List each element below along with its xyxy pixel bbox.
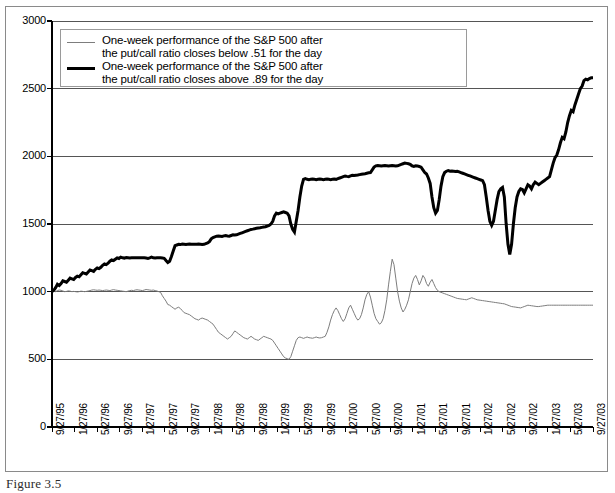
y-axis-tick-label: 1500 bbox=[6, 218, 46, 229]
y-axis-tick-label: 500 bbox=[6, 353, 46, 364]
x-axis-tick-label: 1/27/99 bbox=[281, 403, 291, 435]
legend-above-line2: the put/call ratio closes above .89 for … bbox=[102, 73, 323, 86]
x-axis-tick-label: 9/27/96 bbox=[124, 403, 134, 435]
x-axis-tick-label: 5/27/98 bbox=[236, 403, 246, 435]
legend-below-line1: One-week performance of the S&P 500 afte… bbox=[102, 34, 323, 47]
x-axis-tick-label: 9/27/02 bbox=[529, 403, 539, 435]
x-axis-tick-label: 5/27/03 bbox=[574, 403, 584, 435]
x-axis-tick-label: 1/27/97 bbox=[146, 403, 156, 435]
x-axis-tick-label: 9/27/00 bbox=[394, 403, 404, 435]
x-axis-tick-label: 1/27/02 bbox=[484, 403, 494, 435]
chart-frame: 050010001500200025003000 9/27/951/27/965… bbox=[5, 6, 608, 472]
legend-entry-above: One-week performance of the S&P 500 afte… bbox=[67, 60, 460, 86]
x-axis-tick-label: 1/27/03 bbox=[552, 403, 562, 435]
x-axis-tick-label: 5/27/01 bbox=[439, 403, 449, 435]
legend-entry-below: One-week performance of the S&P 500 afte… bbox=[67, 34, 460, 60]
x-axis-tick-label: 9/27/97 bbox=[191, 403, 201, 435]
legend-entry-above-label: One-week performance of the S&P 500 afte… bbox=[102, 60, 323, 86]
x-axis-tick-label: 1/27/00 bbox=[349, 403, 359, 435]
x-axis-tick-label: 5/27/00 bbox=[372, 403, 382, 435]
x-axis-tick-label: 5/27/96 bbox=[101, 403, 111, 435]
x-axis-tick-label: 9/27/03 bbox=[597, 403, 607, 435]
data-series-layer bbox=[52, 78, 593, 359]
x-axis-tick-label: 1/27/98 bbox=[214, 403, 224, 435]
x-axis-tick-label: 5/27/02 bbox=[507, 403, 517, 435]
x-axis-tick-label: 5/27/99 bbox=[304, 403, 314, 435]
legend-line-swatch-thin-gray bbox=[67, 34, 95, 52]
y-axis-tick-label: 2500 bbox=[6, 83, 46, 94]
x-axis-tick-label: 1/27/01 bbox=[417, 403, 427, 435]
y-axis-tick-label: 0 bbox=[6, 421, 46, 432]
x-axis-tick-label: 5/27/97 bbox=[169, 403, 179, 435]
legend-entry-below-label: One-week performance of the S&P 500 afte… bbox=[102, 34, 323, 60]
y-axis-tick-label: 2000 bbox=[6, 150, 46, 161]
legend-line-swatch-thick-black bbox=[67, 60, 95, 78]
x-axis-tick-label: 9/27/98 bbox=[259, 403, 269, 435]
x-axis-tick-label: 9/27/99 bbox=[327, 403, 337, 435]
x-axis-tick-label: 9/27/01 bbox=[462, 403, 472, 435]
legend-below-line2: the put/call ratio closes below .51 for … bbox=[102, 47, 323, 60]
y-axis-tick-label: 3000 bbox=[6, 15, 46, 26]
figure-root: 050010001500200025003000 9/27/951/27/965… bbox=[0, 0, 615, 493]
legend-above-line1: One-week performance of the S&P 500 afte… bbox=[102, 60, 323, 73]
x-axis-tick-label: 1/27/96 bbox=[79, 403, 89, 435]
figure-caption: Figure 3.5 bbox=[6, 476, 61, 492]
y-axis-tick-label: 1000 bbox=[6, 286, 46, 297]
chart-legend: One-week performance of the S&P 500 afte… bbox=[60, 29, 467, 87]
x-axis-tick-label: 9/27/95 bbox=[56, 403, 66, 435]
